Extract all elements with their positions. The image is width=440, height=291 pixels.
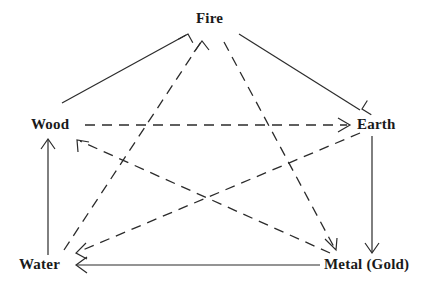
arrowhead-fire-to-metal — [325, 238, 337, 250]
node-label-water: Water — [19, 257, 60, 272]
edge-generating-fire-to-earth — [239, 34, 377, 115]
arrowhead-earth-to-water — [76, 243, 87, 259]
edge-generating-water-to-wood — [41, 139, 55, 255]
edge-overcoming-earth-to-water — [76, 133, 360, 259]
edge-generating-earth-to-metal — [365, 136, 379, 253]
node-label-wood: Wood — [31, 117, 69, 132]
edge-overcoming-wood-to-earth — [85, 118, 350, 132]
edge-overcoming-water-to-fire — [64, 41, 209, 250]
node-label-metal: Metal (Gold) — [324, 257, 409, 272]
node-label-fire: Fire — [196, 11, 223, 26]
arrowhead-wood-to-fire — [178, 34, 192, 48]
five-elements-diagram: Fire Wood Earth Water Metal (Gold) — [0, 0, 440, 291]
arrowhead-metal-to-wood — [77, 140, 89, 152]
edge-generating-wood-to-fire — [62, 34, 193, 103]
diagram-canvas — [0, 0, 440, 291]
edge-generating-metal-to-water — [76, 257, 320, 273]
node-label-earth: Earth — [357, 117, 396, 132]
arrowhead-fire-to-earth — [362, 101, 377, 115]
edge-overcoming-fire-to-metal — [224, 42, 337, 250]
edge-overcoming-metal-to-wood — [77, 140, 330, 253]
